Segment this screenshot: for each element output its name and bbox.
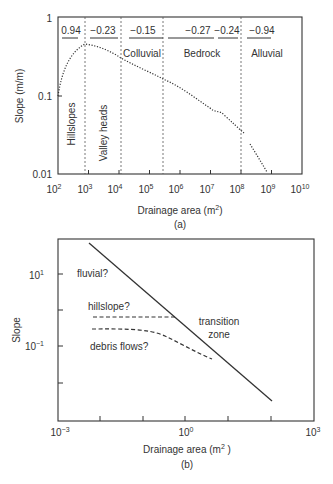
- svg-text:−0.94: −0.94: [249, 25, 275, 36]
- panel-a: 1 0.1 0.01 Slope (m/m) 102 103 104 105 1…: [14, 13, 310, 230]
- svg-text:0.94: 0.94: [61, 25, 81, 36]
- fluvial-line: [89, 243, 272, 401]
- figure: 1 0.1 0.01 Slope (m/m) 102 103 104 105 1…: [0, 0, 333, 484]
- svg-text:102: 102: [46, 183, 61, 195]
- x-ticks-a: 102 103 104 105 106 107 108 109 1010: [46, 183, 309, 195]
- slope-curve-segment-2: [250, 144, 267, 172]
- annotation-fluvial: fluvial?: [77, 268, 109, 279]
- y-tick-10^1: 101: [29, 269, 44, 281]
- y-tick-0.01: 0.01: [33, 169, 53, 180]
- svg-text:−0.23: −0.23: [90, 25, 116, 36]
- x-tick-10^-3: 10−3: [50, 426, 69, 438]
- y-tick-0.1: 0.1: [38, 91, 52, 102]
- y-tick-1: 1: [46, 13, 52, 24]
- annotation-debris-flows: debris flows?: [90, 341, 149, 352]
- region-valley-heads: Valley heads: [98, 105, 109, 162]
- svg-text:−0.24: −0.24: [214, 25, 240, 36]
- plot-b-frame: [58, 239, 314, 421]
- region-alluvial: Alluvial: [251, 48, 283, 59]
- svg-text:1010: 1010: [291, 183, 310, 195]
- x-tick-10^3: 103: [305, 426, 320, 438]
- plot-a-frame: [58, 17, 302, 174]
- x-tick-10^0: 100: [178, 426, 193, 438]
- region-bedrock: Bedrock: [184, 48, 222, 59]
- y-tick-10^-1: 10−1: [25, 340, 44, 352]
- svg-text:104: 104: [107, 183, 122, 195]
- y-axis-label-a: Slope (m/m): [14, 69, 25, 123]
- region-hillslopes: Hillslopes: [66, 103, 77, 146]
- svg-text:107: 107: [199, 183, 214, 195]
- panel-label-b: (b): [181, 459, 193, 470]
- annotation-zone: zone: [208, 329, 230, 340]
- svg-text:−0.27: −0.27: [185, 25, 211, 36]
- svg-text:108: 108: [229, 183, 244, 195]
- svg-text:103: 103: [77, 183, 92, 195]
- x-axis-label-b: Drainage area (m2 ): [143, 443, 231, 455]
- svg-text:−0.15: −0.15: [130, 25, 156, 36]
- panel-label-a: (a): [174, 219, 186, 230]
- annotation-hillslope: hillslope?: [88, 301, 130, 312]
- x-axis-label-a: Drainage area (m2): [137, 204, 222, 216]
- svg-text:109: 109: [260, 183, 275, 195]
- exponent-labels: 0.94 −0.23 −0.15 −0.27 −0.24 −0.94: [61, 25, 275, 36]
- svg-text:105: 105: [138, 183, 153, 195]
- y-axis-label-b: Slope: [11, 317, 22, 343]
- svg-text:106: 106: [168, 183, 183, 195]
- region-colluvial: Colluvial: [123, 48, 161, 59]
- annotation-transition: transition: [199, 316, 240, 327]
- panel-b: 101 10−1 Slope 10−3 100 103 Drainage are…: [11, 239, 321, 470]
